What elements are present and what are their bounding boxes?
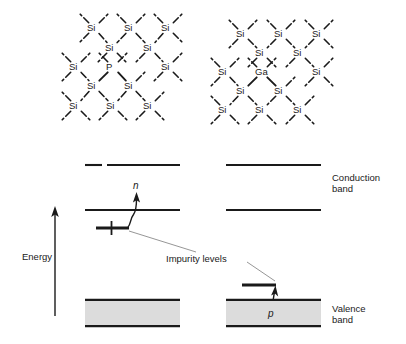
- semiconductor-doping-figure: Energy Conduction band Valence band Impu…: [0, 0, 406, 344]
- electron-excitation-arrow: [128, 199, 137, 227]
- leader-to-donor: [129, 231, 196, 252]
- lattice-atom-si: Si: [69, 100, 77, 111]
- dangling-bond: [81, 111, 89, 119]
- dopant-bond: [99, 72, 107, 80]
- si-si-bond: [155, 34, 163, 43]
- dangling-bond: [248, 115, 256, 123]
- valence-band-label: Valence band: [332, 303, 366, 325]
- dangling-bond: [211, 115, 219, 123]
- lattice-atom-si: Si: [124, 22, 132, 33]
- lattice-atom-si: Si: [274, 85, 282, 96]
- dangling-bond: [80, 33, 88, 41]
- dangling-bond: [173, 53, 181, 61]
- dangling-bond: [173, 14, 181, 22]
- dangling-bond: [136, 14, 144, 22]
- lattice-atom-si: Si: [161, 61, 169, 72]
- dangling-bond: [136, 72, 144, 80]
- lattice-atom-si: Si: [143, 100, 151, 111]
- dopant-bond: [248, 77, 256, 85]
- conduction-band-label: Conduction band: [332, 172, 380, 194]
- si-si-bond: [81, 92, 89, 101]
- lattice-atom-si: Si: [87, 80, 95, 91]
- si-si-bond: [305, 39, 313, 47]
- si-si-bond: [117, 33, 126, 42]
- lattice-atom-si: Si: [124, 80, 132, 91]
- si-si-bond: [230, 96, 238, 104]
- lattice-atom-si: Si: [312, 66, 320, 77]
- si-si-bond: [267, 96, 275, 104]
- leader-to-acceptor: [247, 262, 275, 281]
- dangling-bond: [286, 58, 294, 66]
- dangling-bond: [305, 96, 313, 104]
- lattice-atom-si: Si: [255, 47, 263, 58]
- dangling-bond: [286, 20, 294, 28]
- dangling-bond: [211, 77, 219, 85]
- electron-carrier-label: n: [133, 180, 139, 191]
- hole-carrier-label: p: [268, 308, 274, 319]
- dangling-bond: [154, 72, 162, 80]
- dangling-bond: [173, 33, 181, 41]
- dangling-bond: [62, 72, 70, 80]
- lattice-dopant-atom-p: P: [106, 61, 112, 72]
- dangling-bond: [230, 115, 238, 123]
- p-type-band-diagram: [226, 165, 321, 327]
- lattice-atom-si: Si: [236, 28, 244, 39]
- lattice-atom-si: Si: [274, 28, 282, 39]
- lattice-atom-si: Si: [312, 28, 320, 39]
- dangling-bond: [267, 115, 275, 123]
- dangling-bond: [286, 115, 294, 123]
- si-si-bond: [118, 92, 126, 101]
- lattice-atom-si: Si: [293, 47, 301, 58]
- dangling-bond: [286, 77, 294, 85]
- n-valence-band: [85, 299, 180, 327]
- lattice-dopant-atom-ga: Ga: [255, 66, 268, 77]
- dangling-bond: [305, 77, 313, 85]
- lattice-atom-si: Si: [236, 85, 244, 96]
- dangling-bond: [324, 39, 332, 47]
- lattice-atom-si: Si: [143, 42, 151, 53]
- dangling-bond: [62, 111, 70, 119]
- lattice-atom-si: Si: [218, 66, 226, 77]
- energy-axis: [51, 206, 59, 316]
- dangling-bond: [99, 14, 107, 22]
- dangling-bond: [229, 39, 237, 47]
- lattice-atom-si: Si: [218, 104, 226, 115]
- dangling-bond: [305, 115, 313, 123]
- lattice-atom-si: Si: [87, 22, 95, 33]
- dangling-bond: [230, 58, 238, 66]
- dangling-bond: [324, 20, 332, 28]
- dangling-bond: [99, 111, 107, 119]
- energy-axis-label: Energy: [22, 251, 52, 262]
- lattice-atom-si: Si: [293, 104, 301, 115]
- impurity-levels-label: Impurity levels: [166, 253, 227, 264]
- lattice-atom-si: Si: [161, 22, 169, 33]
- lattice-atom-si: Si: [106, 100, 114, 111]
- dangling-bond: [324, 58, 332, 66]
- lattice-atom-si: Si: [255, 104, 263, 115]
- dangling-bond: [81, 53, 89, 61]
- dangling-bond: [324, 77, 332, 85]
- lattice-atom-si: Si: [69, 61, 77, 72]
- si-si-bond: [267, 39, 275, 47]
- lattice-atom-si: Si: [105, 42, 113, 53]
- dangling-bond: [173, 72, 181, 80]
- dangling-bond: [155, 111, 163, 119]
- dangling-bond: [118, 111, 126, 119]
- dangling-bond: [248, 20, 256, 28]
- dangling-bond: [155, 92, 163, 100]
- dangling-bond: [136, 111, 144, 119]
- dangling-bond: [136, 53, 144, 61]
